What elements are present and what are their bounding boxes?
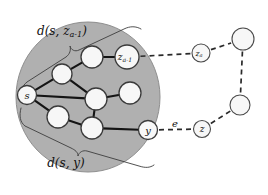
edge-label-e: e [172, 118, 178, 129]
node-inner-1-circle[interactable] [52, 64, 72, 84]
node-z-a-minus-1[interactable]: za-1 [115, 45, 139, 69]
dashed-edge-za-tr [211, 43, 231, 50]
node-s-label: s [24, 90, 29, 101]
node-outer-top-right-circle[interactable] [232, 28, 254, 50]
node-inner-3[interactable] [85, 88, 107, 110]
node-outer-mid-right[interactable] [230, 95, 250, 115]
node-outer-top-right[interactable] [232, 28, 254, 50]
node-inner-1[interactable] [52, 64, 72, 84]
node-s[interactable]: s [18, 86, 37, 105]
node-inner-5[interactable] [47, 106, 69, 128]
node-inner-2[interactable] [81, 46, 103, 68]
node-inner-3-circle[interactable] [85, 88, 107, 110]
diagram-canvas: sza-1yzaz e d(s, za-1) d(s, y) [0, 0, 268, 195]
edge-n6-y [102, 128, 140, 129]
node-inner-4[interactable] [119, 82, 141, 104]
node-z-a[interactable]: za [192, 44, 210, 62]
node-z-a-minus-1-label-subscript: a-1 [123, 56, 133, 63]
node-z-label: z [199, 124, 205, 134]
node-inner-4-circle[interactable] [119, 82, 141, 104]
node-z-a-label-subscript: a [199, 52, 202, 58]
dashed-edge-y-z [159, 129, 192, 130]
brace-bottom-label: d(s, y) [47, 156, 85, 170]
node-y-label: y [144, 125, 151, 136]
node-y[interactable]: y [139, 121, 158, 140]
node-outer-mid-right-circle[interactable] [230, 95, 250, 115]
brace-top-label-close: ) [81, 24, 87, 38]
dashed-edge-tr-mr [241, 51, 243, 93]
node-inner-6-circle[interactable] [81, 117, 103, 139]
brace-top-label-subscript: a-1 [69, 29, 82, 39]
dashed-edge-mr-z [210, 111, 230, 124]
node-z[interactable]: z [194, 121, 211, 138]
edge-label-group: e [172, 118, 178, 129]
node-inner-2-circle[interactable] [81, 46, 103, 68]
node-inner-5-circle[interactable] [47, 106, 69, 128]
graph-diagram-figure: sza-1yzaz e d(s, za-1) d(s, y) [0, 0, 268, 195]
node-inner-6[interactable] [81, 117, 103, 139]
